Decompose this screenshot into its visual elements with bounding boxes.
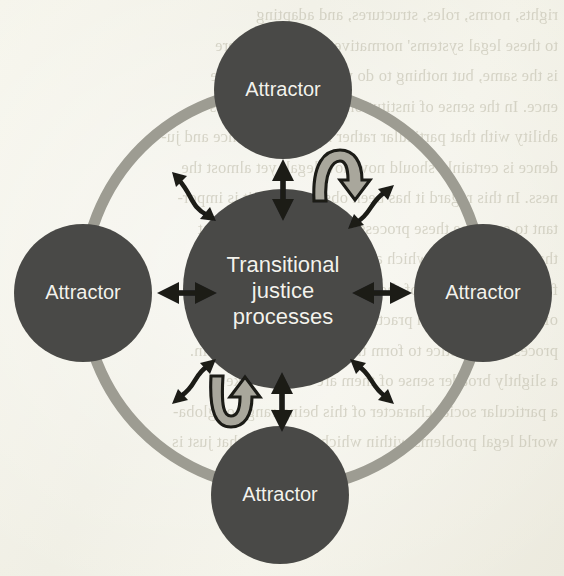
wavy-arrow-lower-right	[350, 359, 394, 404]
attractor-left-circle[interactable]	[14, 224, 152, 362]
figure-canvas: rights, norms, roles, structures, and ad…	[0, 0, 564, 576]
attractor-top-circle[interactable]	[214, 21, 352, 159]
diagram-svg	[0, 0, 564, 576]
attractor-right-circle[interactable]	[414, 224, 552, 362]
attractor-bottom-circle[interactable]	[211, 426, 349, 564]
curved-feedback-arrow-top	[314, 150, 370, 201]
wavy-arrow-upper-left	[172, 172, 216, 221]
